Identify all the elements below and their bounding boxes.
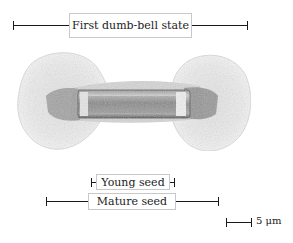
young-seed-tick-right <box>174 178 175 187</box>
figure: First dumb-bell state Young seed Mature … <box>0 0 293 243</box>
scale-bar <box>226 222 252 223</box>
first-state-tick-left <box>13 21 14 30</box>
first-state-label: First dumb-bell state <box>69 13 192 38</box>
mature-seed-tick-left <box>46 197 47 206</box>
mature-seed-label: Mature seed <box>88 193 176 210</box>
rod-end-left <box>80 92 88 116</box>
scale-bar-label: 5 μm <box>256 215 282 226</box>
first-state-tick-right <box>247 21 248 30</box>
rod-core <box>88 96 176 113</box>
mature-seed-tick-right <box>218 197 219 206</box>
scale-bar-tick-right <box>251 218 252 227</box>
young-seed-tick-left <box>91 178 92 187</box>
scale-bar-tick-left <box>226 218 227 227</box>
young-seed-label: Young seed <box>96 174 170 190</box>
rod-end-right <box>176 92 186 116</box>
crystal-body <box>18 53 251 151</box>
